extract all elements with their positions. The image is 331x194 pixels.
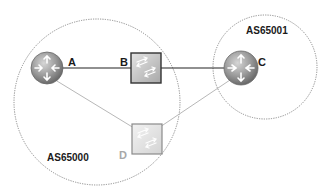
switch-b[interactable]: [131, 53, 161, 83]
node-label-b: B: [120, 57, 128, 67]
link-a-d: [52, 78, 134, 128]
as-label-as65000: AS65000: [47, 153, 89, 163]
router-icon: [224, 51, 258, 85]
link-d-c: [160, 80, 230, 127]
router-c[interactable]: [224, 51, 258, 85]
node-label-d: D: [119, 150, 127, 160]
router-a[interactable]: [31, 52, 63, 84]
as-label-as65001: AS65001: [246, 26, 288, 36]
switch-d[interactable]: [132, 124, 162, 154]
as65000-boundary: [14, 19, 180, 185]
node-label-c: C: [258, 57, 266, 67]
switch-icon: [132, 124, 162, 154]
node-label-a: A: [68, 57, 76, 67]
switch-icon: [131, 53, 161, 83]
router-icon: [31, 52, 63, 84]
